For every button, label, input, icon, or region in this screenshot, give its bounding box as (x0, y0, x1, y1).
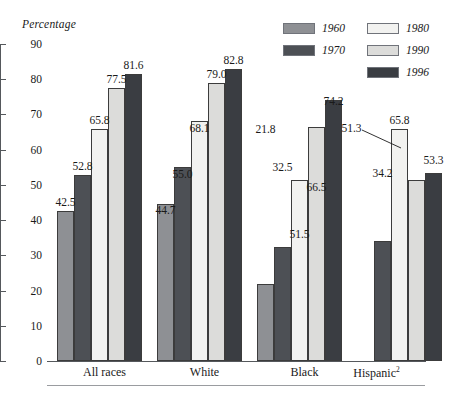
bar-label-white-1970: 55.0 (162, 169, 203, 181)
x-group-label-black-text: Black (291, 365, 319, 379)
bar-label-white-1996: 82.8 (213, 55, 254, 67)
legend: 1960 1970 1980 1990 1996 (283, 22, 448, 92)
bar-hispanic-1996 (425, 173, 442, 361)
bar-black-1960 (257, 284, 274, 361)
y-tick-label-20: 20 (8, 286, 42, 298)
bar-label-black-1960: 21.8 (245, 124, 286, 136)
bar-label-hispanic-1996: 53.3 (413, 155, 454, 167)
y-tick-label-90: 90 (8, 39, 42, 51)
y-tick-10 (0, 326, 6, 327)
bar-label-black-1970: 32.5 (262, 162, 303, 174)
x-group-label-white-text: White (190, 365, 219, 379)
bar-white-1960 (157, 204, 174, 361)
bar-black-1980 (291, 180, 308, 361)
y-tick-label-30: 30 (8, 250, 42, 262)
bar-label-hispanic-1990: 51.3 (331, 123, 372, 135)
bar-allraces-1996 (125, 74, 142, 361)
y-tick-40 (0, 220, 6, 221)
bar-white-1980 (191, 121, 208, 361)
legend-label-1980: 1980 (406, 22, 429, 35)
bar-label-hispanic-1980: 65.8 (379, 115, 420, 127)
bar-black-1990 (308, 127, 325, 361)
y-tick-20 (0, 291, 6, 292)
bar-label-hispanic-1970: 34.2 (362, 168, 403, 180)
y-tick-label-10: 10 (8, 321, 42, 333)
legend-swatch-1960 (283, 23, 315, 34)
y-tick-label-60: 60 (8, 145, 42, 157)
bar-white-1996 (225, 69, 242, 361)
y-tick-label-0: 0 (8, 356, 42, 368)
y-axis-line (0, 44, 1, 362)
bar-label-allraces-1996: 81.6 (113, 60, 154, 72)
bar-hispanic-1990 (408, 180, 425, 361)
x-group-label-hispanic-text: Hispanic (353, 366, 396, 380)
legend-label-1960: 1960 (322, 22, 345, 35)
y-tick-60 (0, 150, 6, 151)
bar-label-allraces-1980: 65.8 (79, 115, 120, 127)
y-tick-70 (0, 114, 6, 115)
x-group-label-hispanic-footnote: 2 (396, 365, 400, 374)
bar-label-black-1980: 51.5 (279, 229, 320, 241)
legend-swatch-1970 (283, 45, 315, 56)
y-tick-80 (0, 79, 6, 80)
bar-label-allraces-1990: 77.5 (96, 74, 137, 86)
x-group-label-all-races: All races (57, 366, 152, 378)
bar-label-allraces-1960: 42.5 (45, 197, 86, 209)
bar-hispanic-1980 (391, 129, 408, 361)
y-tick-label-70: 70 (8, 109, 42, 121)
y-tick-50 (0, 185, 6, 186)
bar-label-allraces-1970: 52.8 (62, 161, 103, 173)
legend-swatch-1996 (367, 67, 399, 78)
bar-black-1996 (325, 100, 342, 361)
bar-label-white-1960: 44.7 (145, 205, 186, 217)
legend-swatch-1990 (367, 45, 399, 56)
bar-label-black-1990: 66.5 (296, 182, 337, 194)
x-axis-line (47, 361, 426, 362)
y-axis-title: Percentage (22, 18, 76, 30)
legend-label-1970: 1970 (322, 44, 345, 57)
legend-label-1990: 1990 (406, 44, 429, 57)
y-tick-label-40: 40 (8, 215, 42, 227)
bar-label-black-1996: 74.2 (313, 96, 354, 108)
bar-label-white-1990: 79.0 (196, 69, 237, 81)
chart-figure: Percentage 0 10 20 30 40 50 60 70 80 90 … (0, 0, 459, 397)
bar-allraces-1960 (57, 211, 74, 361)
y-tick-label-80: 80 (8, 74, 42, 86)
y-tick-label-50: 50 (8, 180, 42, 192)
legend-swatch-1980 (367, 23, 399, 34)
x-group-label-hispanic: Hispanic2 (329, 366, 424, 379)
x-group-label-white: White (157, 366, 252, 378)
bar-black-1970 (274, 247, 291, 362)
y-tick-0 (0, 361, 6, 362)
bar-allraces-1990 (108, 88, 125, 361)
bar-hispanic-1970 (374, 241, 391, 362)
bar-white-1970 (174, 167, 191, 361)
x-group-label-all-races-text: All races (83, 365, 126, 379)
legend-label-1996: 1996 (406, 66, 429, 79)
footer-rule (47, 385, 425, 386)
bar-label-white-1980: 68.1 (179, 123, 220, 135)
y-tick-30 (0, 255, 6, 256)
y-tick-90 (0, 44, 6, 45)
